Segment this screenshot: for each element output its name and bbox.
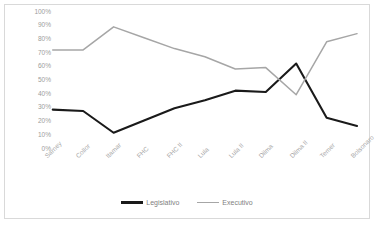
x-tick-label: Dilma [258,143,274,159]
x-tick-label: Temer [319,142,336,159]
x-tick-label: Lula II [228,142,245,159]
x-tick-label: Sarney [44,140,63,159]
legend-label: Executivo [222,199,252,206]
legend-swatch-icon [121,201,143,204]
x-tick-label: Lula [197,146,210,159]
legend-entry[interactable]: Executivo [197,199,252,206]
x-tick-label: FHC [136,146,150,160]
x-tick-label: Collor [75,143,92,160]
chart-legend: LegislativoExecutivo [5,199,369,206]
legend-label: Legislativo [146,199,179,206]
x-tick-label: Bolsonaro [350,134,375,159]
legend-entry[interactable]: Legislativo [121,199,179,206]
x-tick-label: Dilma II [289,139,309,159]
x-axis: SarneyCollorItamarFHCFHC IILulaLula IIDi… [5,5,369,218]
chart-container: 100%90%80%70%60%50%40%30%20%10%0% Sarney… [4,4,370,219]
legend-swatch-icon [197,202,219,204]
x-tick-label: Itamar [105,142,123,160]
x-tick-label: FHC II [166,142,184,160]
